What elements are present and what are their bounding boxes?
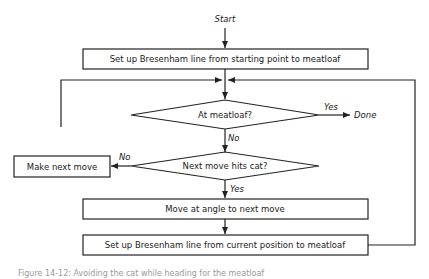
flowchart: Start Set up Bresenham line from startin… xyxy=(0,0,429,279)
box-move-angle-text: Move at angle to next move xyxy=(165,204,285,214)
decision-at-meatloaf-text: At meatloaf? xyxy=(198,110,252,120)
figure-caption: Figure 14-12: Avoiding the cat while hea… xyxy=(18,269,264,278)
decision-hits-cat-text: Next move hits cat? xyxy=(183,161,268,171)
done-label: Done xyxy=(354,110,376,120)
yes-label-2: Yes xyxy=(230,184,244,194)
no-label-1: No xyxy=(228,133,240,143)
box-setup-current-text: Set up Bresenham line from current posit… xyxy=(105,240,346,250)
box-make-move-text: Make next move xyxy=(27,162,97,172)
yes-label-1: Yes xyxy=(324,102,338,112)
start-label: Start xyxy=(215,14,236,24)
box-setup-start-text: Set up Bresenham line from starting poin… xyxy=(110,54,342,64)
no-label-2: No xyxy=(119,152,131,162)
